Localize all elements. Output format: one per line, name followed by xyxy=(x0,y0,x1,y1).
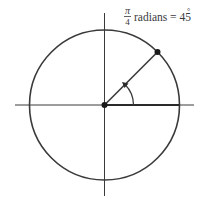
terminal-point xyxy=(155,49,161,55)
label-text: radians = 45 xyxy=(134,11,191,23)
fraction-denominator: 4 xyxy=(125,17,130,27)
terminal-side xyxy=(105,52,158,105)
degree-symbol: ° xyxy=(187,7,190,16)
angle-label: π 4 radians = 45 ° xyxy=(124,5,191,27)
origin-point xyxy=(102,102,108,108)
angle-arc xyxy=(125,85,134,106)
fraction-numerator: π xyxy=(125,5,131,16)
unit-circle-diagram: π 4 radians = 45 ° xyxy=(0,0,202,203)
